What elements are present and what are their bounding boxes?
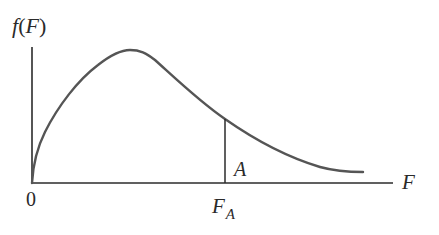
y-axis-label: f(F): [12, 15, 46, 37]
origin-tick-label: 0: [26, 189, 36, 209]
density-curve: [32, 50, 363, 183]
tail-area-label: A: [234, 159, 246, 179]
x-axis-label: F: [402, 172, 415, 193]
critical-value-label: FA: [212, 196, 235, 222]
f-distribution-figure: f(F) 0 F A FA: [0, 0, 439, 235]
